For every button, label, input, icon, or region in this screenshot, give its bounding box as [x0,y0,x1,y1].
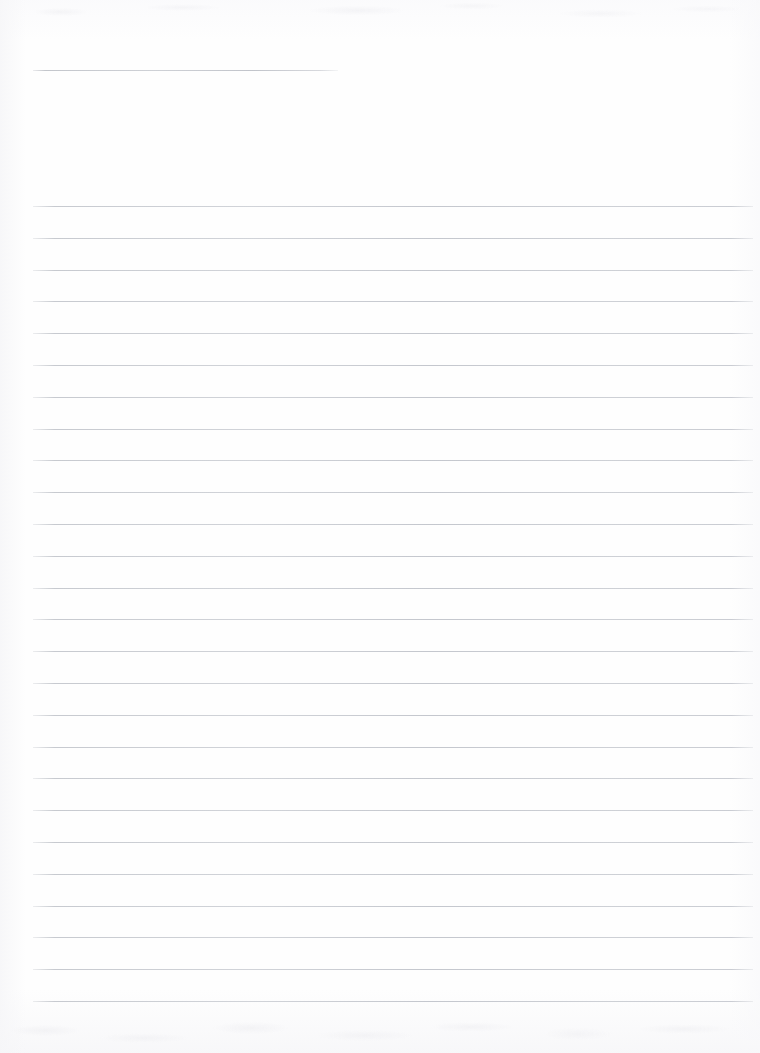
ruled-line [33,842,753,843]
ruled-line [33,874,753,875]
ruled-line [33,715,753,716]
ruled-line [33,778,753,779]
ruled-line [33,1001,753,1002]
paper-surface [0,0,760,1053]
ruled-line [33,906,753,907]
notebook-page [0,0,760,1053]
ruled-line [33,429,753,430]
ruled-line [33,301,753,302]
ruled-line [33,588,753,589]
ruled-line [33,969,753,970]
ruled-line [33,619,753,620]
ruled-line [33,492,753,493]
ruled-line [33,524,753,525]
ruled-line [33,460,753,461]
scan-texture-top [0,0,760,30]
ruled-line [33,365,753,366]
ruled-line [33,238,753,239]
ruled-line [33,747,753,748]
title-rule [33,70,338,71]
ruled-line [33,651,753,652]
ruled-line [33,683,753,684]
ruled-line [33,937,753,938]
ruled-line [33,333,753,334]
ruled-line [33,270,753,271]
ruled-line [33,397,753,398]
ruled-line [33,556,753,557]
ruled-line [33,810,753,811]
scan-texture-bottom [0,1003,760,1053]
ruled-line [33,206,753,207]
